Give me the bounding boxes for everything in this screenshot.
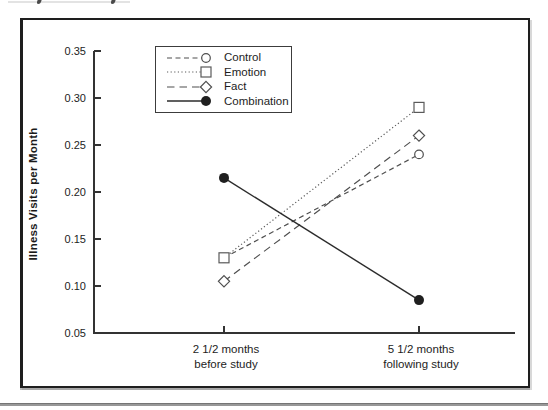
legend-item-emotion: Emotion bbox=[165, 65, 291, 79]
legend-sample-long-dashed bbox=[165, 80, 215, 94]
series-line-emotion bbox=[224, 107, 419, 257]
open-diamond-marker bbox=[413, 130, 424, 141]
open-diamond-marker bbox=[218, 276, 229, 287]
legend-sample-solid bbox=[165, 94, 215, 108]
legend-label: Combination bbox=[224, 95, 289, 108]
bottom-page-rule bbox=[0, 403, 548, 406]
open-diamond-marker bbox=[200, 81, 211, 92]
open-square-marker bbox=[414, 102, 424, 112]
legend-sample-dashed bbox=[165, 51, 215, 65]
y-tick-label: 0.05 bbox=[65, 327, 86, 339]
x-category-label: 2 1/2 months before study bbox=[193, 342, 259, 372]
open-square-marker bbox=[201, 67, 211, 77]
series-line-combination bbox=[224, 178, 419, 300]
y-tick-label: 0.10 bbox=[65, 280, 86, 292]
open-circle-marker bbox=[202, 53, 211, 62]
open-square-marker bbox=[219, 253, 229, 263]
x-category-label: 5 1/2 months following study bbox=[383, 342, 458, 372]
series-line-control bbox=[224, 154, 419, 257]
y-tick-label: 0.25 bbox=[65, 139, 86, 151]
legend-label: Control bbox=[224, 51, 261, 64]
legend-item-control: Control bbox=[165, 51, 291, 65]
filled-circle-marker bbox=[414, 295, 424, 305]
open-circle-marker bbox=[415, 150, 424, 159]
page: 0.050.100.150.200.250.300.35 Illness Vis… bbox=[0, 0, 548, 410]
y-axis-title: Illness Visits per Month bbox=[27, 127, 39, 260]
filled-circle-marker bbox=[201, 96, 211, 106]
legend-item-fact: Fact bbox=[165, 80, 291, 94]
legend-label: Fact bbox=[224, 80, 246, 93]
legend-label: Emotion bbox=[224, 66, 266, 79]
series-line-fact bbox=[224, 136, 419, 282]
y-tick-label: 0.15 bbox=[65, 233, 86, 245]
y-tick-label: 0.20 bbox=[65, 186, 86, 198]
legend-item-combination: Combination bbox=[165, 94, 291, 108]
y-tick-label: 0.30 bbox=[65, 92, 86, 104]
filled-circle-marker bbox=[219, 173, 229, 183]
legend: ControlEmotionFactCombination bbox=[155, 46, 292, 113]
y-tick-label: 0.35 bbox=[65, 45, 86, 57]
legend-sample-dotted bbox=[165, 65, 215, 79]
